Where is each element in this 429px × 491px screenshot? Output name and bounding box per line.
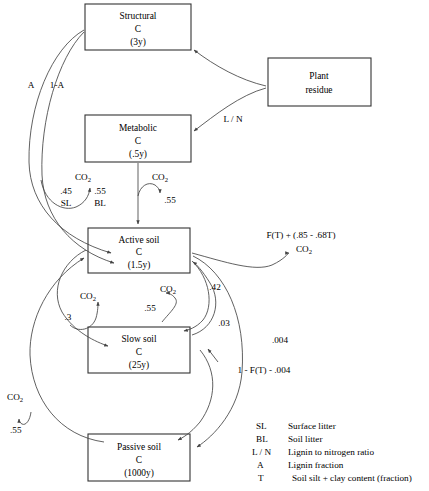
label-passive-co2-frac: .55: [10, 425, 22, 435]
legend-desc-ln: Lignin to nitrogen ratio: [288, 447, 374, 457]
edge-passive-to-co2: [19, 412, 31, 424]
slow-soil-symbol: C: [136, 347, 142, 357]
label-A: A: [28, 80, 35, 90]
box-plant-residue: Plant residue: [268, 58, 371, 106]
edge-metabolic-to-co2: [138, 184, 160, 196]
legend-row-ln: L / N Lignin to nitrogen ratio: [252, 447, 374, 457]
legend-row-a: A Lignin fraction: [257, 460, 344, 470]
label-1-minus-A: 1-A: [50, 80, 65, 90]
label-l-over-n: L / N: [223, 114, 242, 124]
box-slow-soil: Slow soil C (25y): [88, 327, 190, 373]
metabolic-turnover: (.5y): [129, 149, 147, 160]
active-soil-symbol: C: [136, 247, 142, 257]
label-frac-55-bl: .55: [94, 186, 106, 196]
legend-row-t: T Soil silt + clay content (fraction): [258, 473, 412, 483]
structural-turnover: (3y): [130, 37, 146, 48]
svg-text:CO2: CO2: [160, 284, 176, 295]
plant-residue-label-line1: Plant: [309, 71, 329, 81]
legend-desc-sl: Surface litter: [288, 421, 336, 431]
co2-sub-5: 2: [173, 288, 176, 295]
passive-soil-label: Passive soil: [117, 442, 161, 452]
legend-key-bl: BL: [256, 434, 268, 444]
edge-label-pointer-1mft: [208, 349, 218, 362]
edge-slow-to-active: [192, 262, 216, 335]
metabolic-symbol: C: [135, 136, 141, 146]
co2-text-4: CO: [80, 291, 93, 301]
label-frac-3: .3: [65, 312, 72, 322]
co2-sub-1: 2: [88, 176, 91, 183]
slow-soil-turnover: (25y): [129, 360, 149, 371]
svg-text:CO2: CO2: [296, 244, 312, 255]
legend-desc-t: Soil silt + clay content (fraction): [292, 473, 412, 483]
legend-key-sl: SL: [256, 421, 267, 431]
legend-key-t: T: [258, 473, 264, 483]
box-passive-soil: Passive soil C (1000y): [88, 434, 190, 481]
co2-text-6: CO: [7, 392, 20, 402]
edge-slow-co2-03: [70, 302, 98, 329]
co2-sub-2: 2: [165, 176, 168, 183]
carbon-flow-diagram: Structural C (3y) Plant residue Metaboli…: [0, 0, 429, 491]
svg-text:CO2: CO2: [7, 392, 23, 403]
label-frac-42: .42: [209, 282, 221, 292]
co2-text-2: CO: [152, 172, 165, 182]
legend: SL Surface litter BL Soil litter L / N L…: [252, 421, 412, 483]
box-structural: Structural C (3y): [85, 4, 191, 50]
label-passive-co2: CO2: [7, 392, 23, 403]
svg-text:CO2: CO2: [152, 172, 168, 183]
plant-residue-label-line2: residue: [305, 85, 332, 95]
co2-text-3: CO: [296, 244, 309, 254]
co2-text-1: CO: [75, 172, 88, 182]
co2-text-5: CO: [160, 284, 173, 294]
metabolic-label: Metabolic: [119, 123, 157, 133]
edge-plant-to-structural: [194, 50, 266, 86]
slow-soil-label: Slow soil: [121, 334, 157, 344]
label-metabolic-co2: CO2: [152, 172, 168, 183]
co2-sub-4: 2: [93, 295, 96, 302]
box-metabolic: Metabolic C (.5y): [85, 115, 191, 162]
edge-slow-to-co2: [162, 293, 176, 322]
plant-residue-box-rect: [268, 58, 371, 106]
label-structural-co2: CO2: [75, 172, 91, 183]
active-soil-turnover: (1.5y): [128, 260, 151, 271]
co2-sub-6: 2: [20, 396, 23, 403]
edge-plant-to-metabolic: [194, 88, 266, 131]
label-slow-left-co2: CO2: [80, 291, 96, 302]
label-frac-004: .004: [272, 335, 288, 345]
legend-desc-a: Lignin fraction: [288, 460, 344, 470]
label-active-co2: CO2: [296, 244, 312, 255]
legend-row-bl: BL Soil litter: [256, 434, 322, 444]
label-1-minus-ft: 1 - F(T) - .004: [238, 365, 291, 375]
label-frac-45: .45: [60, 186, 72, 196]
legend-key-ln: L / N: [252, 447, 271, 457]
legend-desc-bl: Soil litter: [288, 434, 322, 444]
label-sl: SL: [61, 198, 72, 208]
co2-sub-3: 2: [309, 248, 312, 255]
label-metabolic-co2-frac: .55: [164, 195, 176, 205]
legend-row-sl: SL Surface litter: [256, 421, 336, 431]
passive-soil-symbol: C: [136, 455, 142, 465]
label-ft-expression: F(T) + (.85 - .68T): [267, 230, 336, 240]
label-slow-co2: CO2: [160, 284, 176, 295]
legend-key-a: A: [257, 460, 264, 470]
structural-symbol: C: [135, 24, 141, 34]
label-slow-co2-frac: .55: [144, 303, 156, 313]
label-frac-03: .03: [218, 318, 230, 328]
svg-text:CO2: CO2: [75, 172, 91, 183]
svg-text:CO2: CO2: [80, 291, 96, 302]
label-bl: BL: [94, 198, 106, 208]
diagram-root: Structural C (3y) Plant residue Metaboli…: [0, 0, 429, 491]
structural-label: Structural: [120, 11, 157, 21]
active-soil-label: Active soil: [119, 235, 160, 245]
passive-soil-turnover: (1000y): [124, 468, 154, 479]
